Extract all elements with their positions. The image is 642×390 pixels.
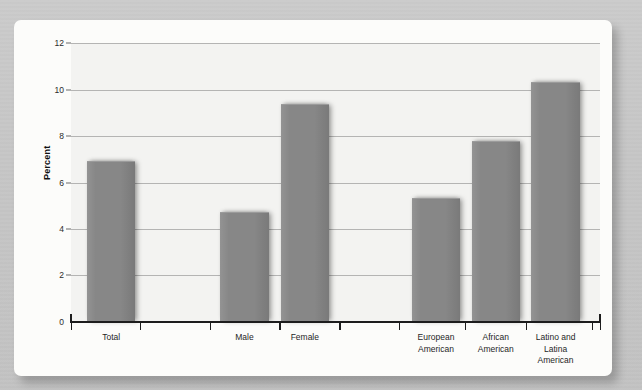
xlabel-female: Female xyxy=(291,332,319,344)
x-axis-tick-2 xyxy=(210,322,211,330)
gridline-10 xyxy=(71,90,600,91)
gridline-4 xyxy=(71,229,600,230)
bar-total xyxy=(87,161,135,322)
figure-card: Percent 12 10 8 6 4 2 0 xyxy=(14,20,612,376)
ytick-label-6: 6 xyxy=(59,178,64,188)
chart-screenshot: Percent 12 10 8 6 4 2 0 xyxy=(0,0,642,390)
xlabel-total: Total xyxy=(102,332,120,344)
x-axis-tick-5 xyxy=(399,322,400,330)
bar-female xyxy=(281,104,329,322)
ytick-label-4: 4 xyxy=(59,224,64,234)
bar-male xyxy=(220,212,268,322)
ytick-mark-6 xyxy=(66,182,71,183)
x-axis-tick-9 xyxy=(600,322,601,330)
ytick-mark-8 xyxy=(66,135,71,136)
ytick-mark-2 xyxy=(66,275,71,276)
xlabel-male: Male xyxy=(235,332,253,344)
x-axis-tick-1 xyxy=(140,322,141,330)
x-axis-tick-0 xyxy=(71,322,72,330)
ytick-label-2: 2 xyxy=(59,270,64,280)
x-axis-tick-6 xyxy=(465,322,466,330)
ytick-label-12: 12 xyxy=(55,38,64,48)
gridline-6 xyxy=(71,183,600,184)
gridline-8 xyxy=(71,136,600,137)
gridline-12 xyxy=(71,43,600,44)
y-axis-title: Percent xyxy=(42,146,52,180)
x-axis-tick-8 xyxy=(592,322,593,330)
xlabel-european-american: European American xyxy=(418,332,455,355)
bar-african-american xyxy=(472,141,520,322)
ytick-label-8: 8 xyxy=(59,131,64,141)
ytick-label-10: 10 xyxy=(55,85,64,95)
xlabel-african-american: African American xyxy=(478,332,514,355)
x-axis-tick-3 xyxy=(279,322,280,330)
ytick-mark-4 xyxy=(66,229,71,230)
ytick-mark-10 xyxy=(66,89,71,90)
bar-european-american xyxy=(412,198,460,322)
ytick-mark-12 xyxy=(66,43,71,44)
plot-area: 12 10 8 6 4 2 0 Total Male Female Europe… xyxy=(71,43,600,322)
bar-latino-latina-american xyxy=(531,82,579,322)
xlabel-latino-latina-american: Latino and Latina American xyxy=(533,332,577,367)
x-axis-tick-7 xyxy=(526,322,527,330)
x-axis-line xyxy=(71,321,600,323)
ytick-label-0: 0 xyxy=(59,317,64,327)
gridline-2 xyxy=(71,275,600,276)
x-axis-tick-4 xyxy=(339,322,340,330)
